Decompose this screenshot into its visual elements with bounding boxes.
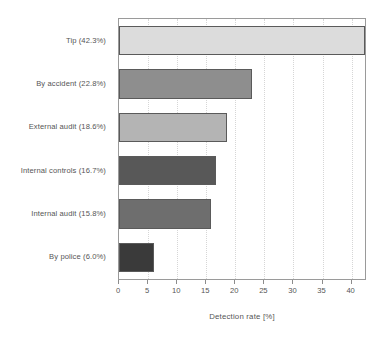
category-label: Tip (42.3%): [66, 35, 106, 44]
x-tick-label: 25: [259, 286, 267, 295]
x-tick-mark: [322, 280, 323, 284]
x-tick-mark: [205, 280, 206, 284]
bar-chart-figure: Tip (42.3%)By accident (22.8%)External a…: [0, 0, 379, 340]
gridline-x-20: [235, 19, 237, 279]
x-tick-mark: [351, 280, 352, 284]
gridline-x-25: [264, 19, 266, 279]
x-tick-label: 35: [317, 286, 325, 295]
x-tick-mark: [147, 280, 148, 284]
category-label: External audit (18.6%): [29, 122, 106, 131]
x-tick-mark: [234, 280, 235, 284]
x-tick-mark: [176, 280, 177, 284]
x-tick-label: 40: [346, 286, 354, 295]
x-tick-label: 10: [172, 286, 180, 295]
x-axis: 0510152025303540: [118, 280, 366, 304]
gridline-x-35: [323, 19, 325, 279]
bar: [119, 243, 154, 272]
x-tick-mark: [263, 280, 264, 284]
bar: [119, 113, 227, 142]
bar: [119, 199, 211, 228]
category-label: Internal audit (15.8%): [31, 209, 106, 218]
x-tick-label: 30: [288, 286, 296, 295]
gridline-x-15: [206, 19, 208, 279]
x-tick-label: 0: [116, 286, 120, 295]
x-tick-mark: [118, 280, 119, 284]
gridline-x-30: [293, 19, 295, 279]
category-label: Internal controls (16.7%): [21, 165, 106, 174]
gridline-x-10: [177, 19, 179, 279]
bar: [119, 69, 252, 98]
category-label: By police (6.0%): [49, 252, 106, 261]
x-tick-mark: [292, 280, 293, 284]
x-axis-title: Detection rate [%]: [118, 312, 366, 322]
bar: [119, 156, 216, 185]
category-label: By accident (22.8%): [36, 79, 106, 88]
x-tick-label: 5: [145, 286, 149, 295]
plot-area: [118, 18, 366, 280]
gridline-x-5: [148, 19, 150, 279]
x-tick-label: 20: [230, 286, 238, 295]
gridline-x-40: [352, 19, 354, 279]
bar: [119, 26, 365, 55]
category-axis-labels: Tip (42.3%)By accident (22.8%)External a…: [0, 18, 112, 280]
x-tick-label: 15: [201, 286, 209, 295]
